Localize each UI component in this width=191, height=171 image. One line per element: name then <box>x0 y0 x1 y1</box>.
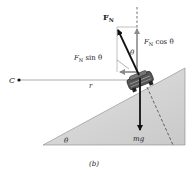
fn-cos-label: FN cos θ <box>143 38 174 47</box>
theta-car-label: θ <box>130 49 135 57</box>
banked-curve-diagram: FN FN cos θ FN sin θ θ C r mg θ (b) <box>0 0 191 171</box>
normal-force-arrow <box>118 30 139 75</box>
center-point-dot <box>17 78 20 81</box>
center-label: C <box>9 76 15 85</box>
weight-label: mg <box>133 135 145 143</box>
radius-label: r <box>89 82 93 90</box>
leader-line <box>117 60 129 69</box>
banked-incline <box>43 68 185 145</box>
fn-sin-label: FN sin θ <box>73 54 102 63</box>
figure-caption: (b) <box>89 160 99 168</box>
normal-force-label: FN <box>103 12 114 23</box>
